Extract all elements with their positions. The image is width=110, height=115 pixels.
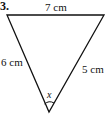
triangle-diagram: 3. 7 cm 6 cm 5 cm x — [0, 0, 110, 115]
side-label-right: 5 cm — [82, 63, 104, 75]
problem-number: 3. — [0, 0, 9, 13]
angle-label-x: x — [46, 89, 52, 100]
side-label-top: 7 cm — [45, 1, 67, 13]
side-label-left: 6 cm — [1, 56, 23, 68]
